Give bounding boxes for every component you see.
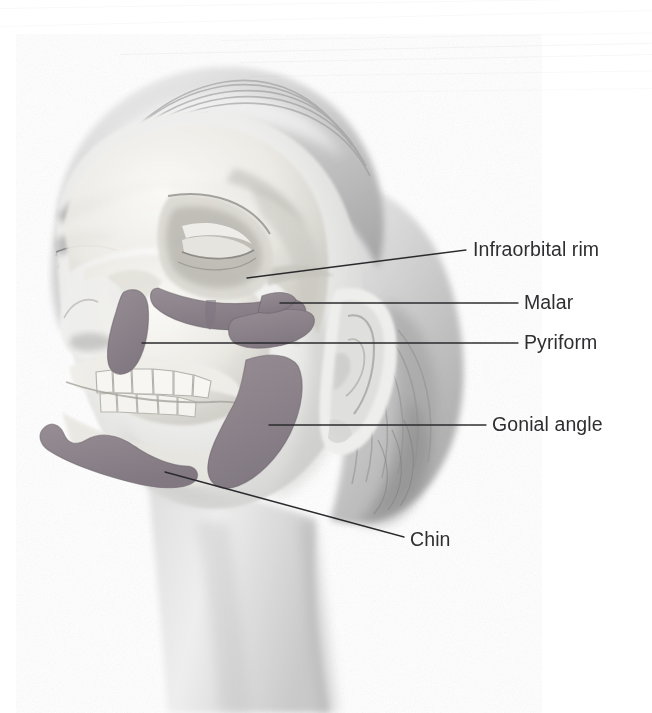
label-pyriform: Pyriform bbox=[524, 333, 597, 353]
facial-skeleton-illustration bbox=[0, 0, 652, 713]
label-malar: Malar bbox=[524, 293, 573, 313]
label-chin: Chin bbox=[410, 530, 451, 550]
label-gonial-angle: Gonial angle bbox=[492, 415, 603, 435]
label-infraorbital-rim: Infraorbital rim bbox=[473, 240, 599, 260]
anatomy-figure: Infraorbital rim Malar Pyriform Gonial a… bbox=[0, 0, 652, 713]
